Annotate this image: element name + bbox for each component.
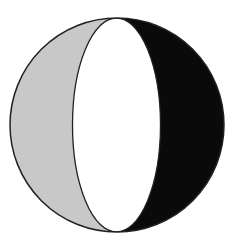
sphere-diagram bbox=[0, 0, 235, 245]
center-lens bbox=[73, 18, 161, 232]
